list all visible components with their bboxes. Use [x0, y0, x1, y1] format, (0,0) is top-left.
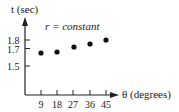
x-axis-label: θ (degrees)	[122, 89, 171, 100]
data-point	[38, 50, 43, 55]
annotation-label: r = constant	[45, 21, 99, 32]
data-point	[54, 49, 59, 54]
y-axis-label: t (sec)	[11, 4, 38, 15]
data-point	[87, 41, 92, 46]
y-tick-label: 1.7	[7, 44, 20, 55]
y-tick-label: 1.5	[7, 61, 20, 72]
x-tick-label: 45	[98, 99, 114, 110]
x-tick-label: 18	[49, 99, 65, 110]
data-point	[103, 37, 108, 42]
x-tick-label: 9	[33, 99, 49, 110]
data-point	[71, 44, 76, 49]
x-axis-arrow-icon	[110, 92, 119, 98]
x-tick-label: 27	[65, 99, 81, 110]
y-axis-arrow-icon	[22, 17, 28, 26]
x-tick-label: 36	[82, 99, 98, 110]
